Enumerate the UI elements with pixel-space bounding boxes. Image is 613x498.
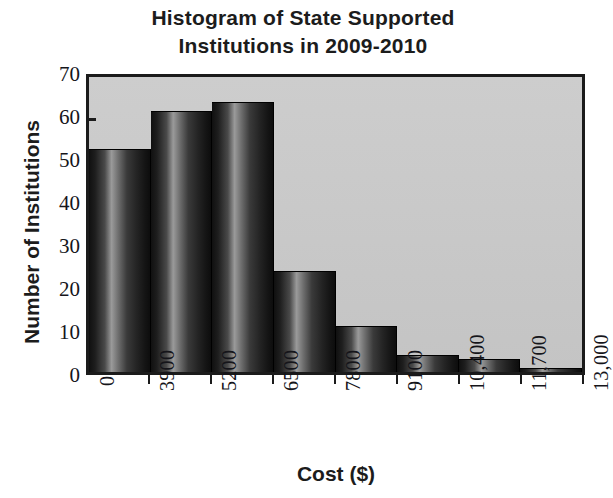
y-tick-label-50: 50: [40, 150, 80, 171]
y-tick-label-40: 40: [40, 193, 80, 214]
chart-title-line-1: Histogram of State Supported: [0, 4, 606, 32]
y-tick-label-0: 0: [40, 365, 80, 386]
x-tick-label-6500: 6500: [280, 350, 303, 391]
x-tick-label-10400: 10,400: [466, 334, 489, 391]
x-tick-9100: [396, 375, 398, 384]
chart-title: Histogram of State Supported Institution…: [0, 4, 606, 60]
y-tick-label-70: 70: [40, 64, 80, 85]
histogram-bar-3[interactable]: [212, 102, 274, 372]
y-axis-tick-labels: 70 60 50 40 30 20 10 0: [36, 0, 80, 498]
y-tick-label-10: 10: [40, 322, 80, 343]
x-tick-label-3900: 3900: [156, 350, 179, 391]
x-tick-label-7800: 7800: [342, 350, 365, 391]
x-tick-3900: [148, 375, 150, 384]
x-tick-label-0: 0: [96, 376, 119, 386]
histogram-bar-1[interactable]: [89, 149, 151, 372]
bars-layer: [89, 77, 582, 372]
x-tick-5200: [210, 375, 212, 384]
x-tick-6500: [272, 375, 274, 384]
x-tick-label-13000: 13,000: [590, 334, 613, 391]
x-axis-title: Cost ($): [86, 462, 586, 486]
histogram-bar-2[interactable]: [151, 111, 212, 372]
x-tick-label-11700: 11,700: [528, 335, 551, 391]
chart-title-line-2: Institutions in 2009-2010: [0, 32, 606, 60]
x-tick-11700: [520, 375, 522, 384]
y-tick-label-30: 30: [40, 236, 80, 257]
y-tick-label-60: 60: [40, 107, 80, 128]
plot-area: [86, 74, 585, 375]
x-tick-label-9100: 9100: [404, 350, 427, 391]
x-tick-label-5200: 5200: [218, 350, 241, 391]
x-tick-10400: [458, 375, 460, 384]
x-tick-13000: [582, 375, 584, 384]
x-tick-7800: [334, 375, 336, 384]
y-tick-label-20: 20: [40, 279, 80, 300]
